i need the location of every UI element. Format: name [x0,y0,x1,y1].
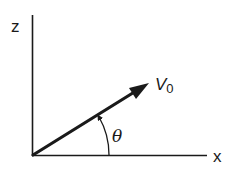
angle-label: θ [112,126,122,146]
vector-diagram: z x V0 θ [0,0,237,179]
x-axis-label: x [213,147,222,166]
z-axis-label: z [11,17,20,36]
vector-arrowhead-icon [129,83,149,99]
vector-label: V0 [155,75,174,96]
angle-arc [99,117,109,155]
vector-label-subscript: 0 [166,81,173,96]
